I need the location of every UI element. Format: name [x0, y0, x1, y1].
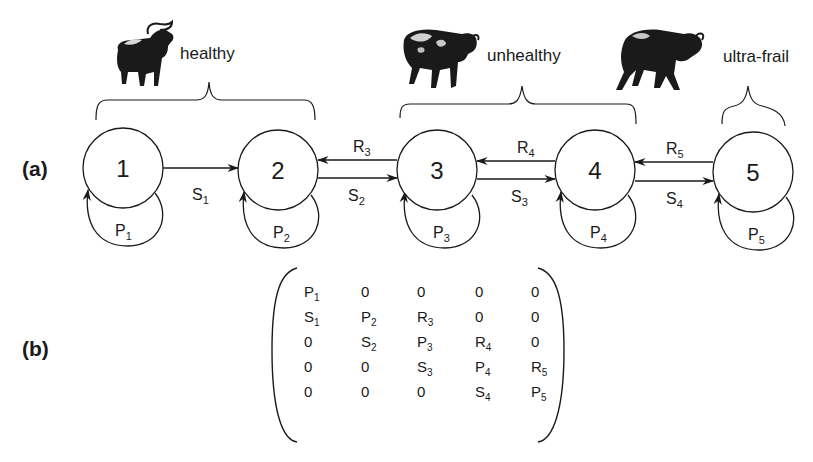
edge-label-r4: R4 [517, 139, 535, 159]
group-label-ultra-frail: ultra-frail [723, 47, 789, 66]
matrix-cell-r4-c4: P4 [475, 358, 491, 378]
buffalo-ultra-frail-icon [616, 30, 703, 91]
matrix-cell-r5-c3: 0 [417, 383, 425, 400]
matrix-cell-r2-c3: R3 [417, 308, 434, 328]
matrix-cell-r2-c2: P2 [361, 308, 377, 328]
edge-label-p3: P3 [433, 224, 450, 244]
matrix-cell-r1-c4: 0 [475, 283, 483, 300]
matrix-cell-r1-c3: 0 [417, 283, 425, 300]
matrix-cell-r4-c5: R5 [531, 358, 548, 378]
edge-label-p2: P2 [273, 224, 290, 244]
state-label-4: 4 [588, 157, 601, 184]
edge-label-r5: R5 [666, 140, 684, 160]
brace-healthy [96, 82, 315, 120]
buffalo-unhealthy-icon [403, 29, 478, 88]
matrix-cell-r2-c1: S1 [304, 308, 320, 328]
panel-label-a: (a) [22, 157, 48, 180]
matrix-cell-r3-c5: 0 [531, 333, 539, 350]
matrix-cell-r3-c4: R4 [475, 333, 492, 353]
matrix-cell-r1-c2: 0 [361, 283, 369, 300]
state-label-5: 5 [746, 159, 759, 186]
matrix-cell-r5-c4: S4 [475, 383, 491, 403]
matrix-cell-r4-c2: 0 [361, 358, 369, 375]
matrix-cell-r2-c4: 0 [475, 308, 483, 325]
buffalo-healthy-icon [117, 22, 173, 86]
matrix-cell-r1-c5: 0 [531, 283, 539, 300]
state-label-3: 3 [430, 157, 443, 184]
edge-label-s4: S4 [666, 190, 683, 210]
edge-label-s1: S1 [192, 186, 209, 206]
edge-label-s3: S3 [511, 188, 528, 208]
edge-label-p4: P4 [590, 224, 607, 244]
brace-ultra-frail [722, 86, 785, 126]
matrix-cell-r5-c2: 0 [361, 383, 369, 400]
edge-label-p1: P1 [115, 222, 132, 242]
matrix-cell-r5-c1: 0 [304, 383, 312, 400]
transition-matrix: P10000S1P2R3000S2P3R4000S3P4R5000S4P5 [304, 283, 548, 403]
brace-unhealthy [400, 86, 636, 124]
matrix-cell-r3-c2: S2 [361, 333, 377, 353]
matrix-cell-r1-c1: P1 [304, 283, 320, 303]
state-label-2: 2 [271, 157, 284, 184]
matrix-cell-r2-c5: 0 [531, 308, 539, 325]
matrix-cell-r4-c1: 0 [304, 358, 312, 375]
matrix-left-paren [272, 268, 297, 442]
state-label-1: 1 [116, 155, 129, 182]
matrix-right-paren [538, 268, 564, 442]
edge-label-s2: S2 [348, 187, 365, 207]
edge-label-p5: P5 [748, 226, 765, 246]
matrix-cell-r4-c3: S3 [417, 358, 433, 378]
edge-label-r3: R3 [353, 138, 371, 158]
group-label-healthy: healthy [180, 44, 235, 63]
panel-label-b: (b) [22, 337, 49, 360]
matrix-cell-r3-c1: 0 [304, 333, 312, 350]
diagram-canvas: (a) (b) healthy unhealthy ultra-frail [0, 0, 813, 462]
group-label-unhealthy: unhealthy [487, 46, 561, 65]
matrix-cell-r3-c3: P3 [417, 333, 433, 353]
matrix-cell-r5-c5: P5 [531, 383, 547, 403]
